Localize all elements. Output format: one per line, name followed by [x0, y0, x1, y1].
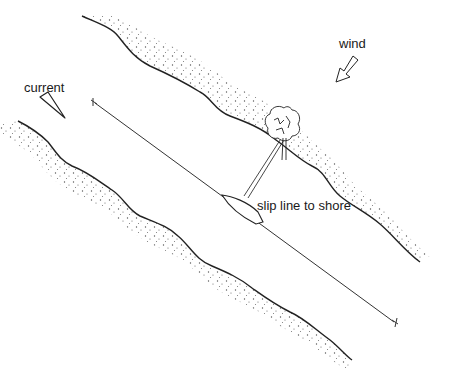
current-arrow-icon: [40, 92, 65, 118]
current-label: current: [24, 81, 64, 94]
slip-line-label: slip line to shore: [257, 199, 351, 212]
anchor-icon-upstream: [91, 98, 97, 106]
anchor-icon-downstream: [392, 318, 398, 327]
wind-arrow-icon: [336, 56, 358, 82]
mooring-diagram: [0, 0, 450, 381]
wind-label: wind: [339, 37, 366, 50]
